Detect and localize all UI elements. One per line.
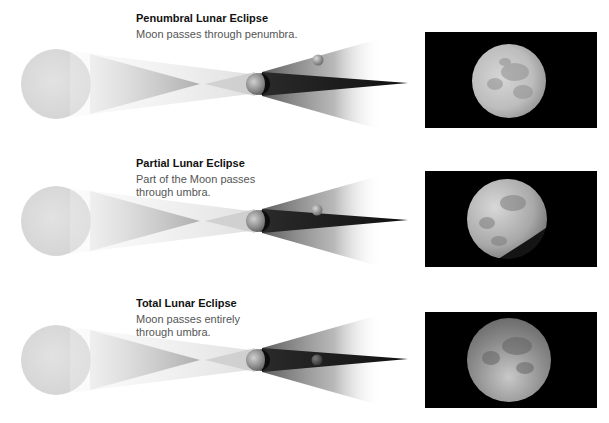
moon-disc bbox=[472, 44, 546, 118]
moon-disc bbox=[467, 318, 551, 402]
eclipse-photo-penumbral bbox=[425, 32, 597, 128]
moon bbox=[312, 355, 323, 366]
eclipse-photo-total bbox=[425, 312, 597, 408]
eclipse-photo-partial bbox=[425, 171, 597, 267]
moon-photo-penumbral bbox=[425, 32, 597, 128]
geometry-total bbox=[21, 314, 408, 406]
moon bbox=[313, 55, 324, 66]
geometry-penumbral bbox=[21, 38, 408, 130]
moon-photo-partial bbox=[425, 171, 597, 267]
geometry-partial bbox=[21, 175, 408, 267]
moon bbox=[312, 205, 323, 216]
moon-photo-total bbox=[425, 312, 597, 408]
